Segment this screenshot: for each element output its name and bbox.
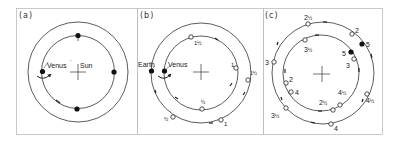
earth-marker-3-label: 3: [265, 59, 269, 66]
venus-marker-1.5-label: 1½: [194, 40, 202, 46]
earth-marker-4: [329, 122, 333, 126]
venus-marker-4.5: [338, 103, 342, 107]
venus-phases-diagram: (a) Venus " Sun (b): [0, 0, 397, 143]
earth-marker-3.5-label: 3½: [271, 112, 280, 119]
rotation-arrow-icon: [37, 75, 50, 78]
venus-dot-right: [111, 69, 116, 74]
venus-marker-2: [284, 81, 288, 85]
earth-marker-5-label: 5: [366, 41, 370, 48]
panel-a-label: (a): [19, 11, 33, 20]
venus-marker-4: [289, 90, 293, 94]
venus-marker-3.5: [303, 38, 307, 42]
venus-marker-3-label: 3: [346, 62, 350, 69]
panel-c-label: (c): [265, 11, 279, 20]
earth-marker-2-label: 2: [355, 27, 359, 34]
venus-dot-top: [75, 33, 80, 38]
venus-marker-2.5-label: 2½: [319, 99, 328, 106]
venus-dot: [162, 68, 167, 73]
earth-marker-1: [219, 118, 223, 122]
earth-dot-5: [359, 41, 364, 46]
earth-marker-4-label: 4: [334, 125, 338, 132]
panel-c-frame: [264, 9, 383, 135]
earth-marker-4.5-label: 4½: [366, 97, 375, 104]
venus-dot-5: [348, 49, 353, 54]
sun-label: Sun: [80, 62, 93, 69]
panel-b-frame: [138, 9, 264, 135]
panel-c: (c) 2½ 2 5 4½ 4 3½ 3 3½ 5 3 2 4 2½: [265, 11, 375, 132]
venus-label: Venus: [168, 61, 188, 68]
venus-marker-0.5: [200, 107, 204, 111]
venus-dot-left: [40, 69, 45, 74]
earth-marker-1.5: [246, 78, 250, 82]
panel-a-frame: [17, 9, 138, 135]
venus-marker-3: [352, 57, 356, 61]
earth-marker-3.5: [284, 106, 288, 110]
earth-marker-1.5-label: 1½: [250, 70, 258, 76]
earth-marker-0.5-label: ½: [164, 116, 169, 122]
panel-a: (a) Venus " Sun: [19, 11, 128, 122]
panel-b-label: (b): [140, 11, 154, 20]
earth-label: Earth: [138, 61, 155, 68]
venus-marker-2-label: 2: [289, 76, 293, 83]
sun-cross-icon: [193, 64, 209, 80]
sun-cross-icon: [313, 66, 330, 82]
venus-marker-1: [234, 66, 238, 70]
earth-marker-1-label: 1: [224, 121, 228, 127]
venus-quote: ": [70, 59, 72, 64]
venus-marker-3.5-label: 3½: [304, 46, 313, 53]
earth-marker-0.5: [171, 115, 175, 119]
earth-marker-2.5-label: 2½: [304, 14, 313, 21]
venus-marker-4.5-label: 4½: [338, 89, 347, 96]
venus-marker-0.5-label: ½: [201, 99, 206, 105]
panel-b: (b) Earth Venus 1½ 1 ½ 1½ 1 ½: [138, 11, 258, 127]
earth-dot: [149, 68, 154, 73]
venus-label: Venus: [47, 62, 67, 69]
panel-frames: [17, 9, 383, 135]
earth-marker-4.5: [365, 92, 369, 96]
venus-dot-bottom: [74, 106, 79, 111]
earth-marker-2: [350, 32, 354, 36]
venus-marker-2.5: [331, 108, 335, 112]
earth-marker-3: [272, 60, 276, 64]
venus-marker-1.5: [189, 35, 193, 39]
venus-marker-4-label: 4: [295, 89, 299, 96]
venus-marker-5-label: 5: [342, 50, 346, 57]
earth-marker-2.5: [306, 22, 310, 26]
